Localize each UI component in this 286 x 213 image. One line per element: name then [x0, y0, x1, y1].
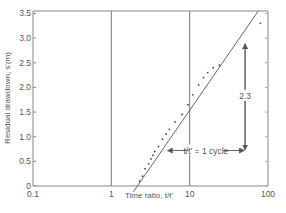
data-point: [139, 180, 141, 182]
x-tick-label: 10: [185, 189, 195, 199]
data-point: [187, 104, 189, 106]
data-point: [219, 64, 221, 66]
cycle-drawdown-label: 2.3: [239, 91, 251, 101]
y-tick-label: 3.0: [19, 33, 31, 43]
data-point: [165, 133, 167, 135]
data-point: [260, 22, 262, 24]
y-tick-label: 0.5: [19, 156, 31, 166]
y-tick-label: 2.5: [19, 58, 31, 68]
y-tick-label: 1.5: [19, 107, 31, 117]
data-point: [174, 121, 176, 123]
data-point: [198, 84, 200, 86]
data-point: [212, 67, 214, 69]
one-cycle-label: t/t' = 1 cycle: [183, 146, 228, 156]
data-point: [154, 151, 156, 153]
data-point: [158, 146, 160, 148]
x-tick-label: 100: [261, 189, 275, 199]
y-tick-label: 2.0: [19, 82, 31, 92]
data-point: [181, 114, 183, 116]
y-tick-label: 3.5: [19, 8, 31, 18]
y-tick-label: 1.0: [19, 132, 31, 142]
data-point: [152, 155, 154, 157]
data-point: [150, 158, 152, 160]
data-point: [203, 77, 205, 79]
x-tick-label: 1: [109, 189, 114, 199]
data-point: [207, 72, 209, 74]
data-point: [142, 175, 144, 177]
x-tick-label: 0.1: [27, 189, 39, 199]
x-axis-title: Time ratio, t/t': [125, 191, 173, 200]
data-point: [144, 168, 146, 170]
data-point: [148, 163, 150, 165]
y-axis-title: Residual drawdown, s'(m): [3, 52, 12, 144]
residual-drawdown-chart: 00.51.01.52.02.53.03.50.1110100 2.3t/t' …: [0, 0, 286, 213]
fitted-line: [133, 11, 258, 192]
data-point: [162, 138, 164, 140]
data-point: [192, 94, 194, 96]
data-point: [168, 128, 170, 130]
